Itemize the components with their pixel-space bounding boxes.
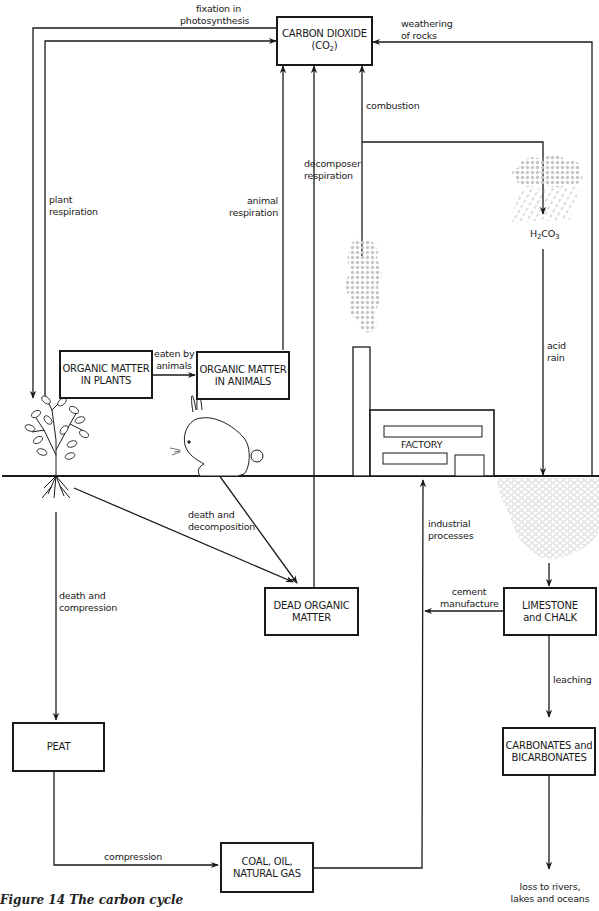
node-carbon-dioxide: CARBON DIOXIDE (CO2) (276, 16, 373, 66)
edge-plant-respiration (45, 41, 276, 398)
label-acid-rain: acidrain (547, 340, 566, 363)
rabbit-icon (170, 395, 263, 476)
node-organic-plants-line2: IN PLANTS (81, 375, 131, 387)
label-eaten-by-animals: eaten byanimals (154, 348, 194, 371)
node-peat-line1: PEAT (47, 741, 71, 753)
node-organic-matter-animals: ORGANIC MATTER IN ANIMALS (196, 351, 290, 400)
carbonic-acid-label: H2CO3 (530, 228, 559, 244)
node-carbon-dioxide-formula: (CO2) (311, 40, 337, 55)
node-organic-animals-line1: ORGANIC MATTER (199, 364, 286, 376)
node-limestone-line2: and CHALK (523, 612, 577, 624)
label-compression: compression (104, 851, 162, 863)
node-peat: PEAT (12, 722, 105, 772)
label-death-and-decomposition: death anddecomposition (188, 509, 255, 532)
node-organic-plants-line1: ORGANIC MATTER (62, 363, 149, 375)
label-fixation-in-photosynthesis: fixation inphotosynthesis (180, 3, 241, 26)
tree-icon (24, 394, 90, 498)
factory-label: FACTORY (401, 439, 442, 450)
node-organic-animals-line2: IN ANIMALS (215, 376, 271, 388)
node-dead-organic-matter: DEAD ORGANIC MATTER (264, 587, 359, 636)
node-carbonates-bicarbonates: CARBONATES and BICARBONATES (502, 727, 596, 776)
label-weathering-of-rocks: weatheringof rocks (401, 18, 453, 41)
label-death-and-compression: death andcompression (59, 590, 117, 613)
factory-icon (353, 347, 494, 476)
edge-plant-death-decomposition (74, 488, 293, 582)
edge-industrial-processes (314, 480, 423, 868)
label-plant-respiration: plantrespiration (49, 194, 98, 217)
edge-to-rain-cloud (362, 142, 543, 214)
node-limestone-chalk: LIMESTONE and CHALK (503, 587, 597, 636)
label-decomposer-respiration: decomposerrespiration (304, 158, 361, 181)
node-carbon-dioxide-line1: CARBON DIOXIDE (282, 28, 367, 40)
node-carbonates-line2: BICARBONATES (511, 752, 586, 764)
node-dead-organic-line2: MATTER (292, 612, 331, 624)
node-organic-matter-plants: ORGANIC MATTER IN PLANTS (59, 350, 153, 399)
label-cement-manufacture: cementmanufacture (440, 586, 498, 609)
node-coal-oil-gas: COAL, OIL, NATURAL GAS (220, 842, 314, 893)
label-leaching: leaching (553, 674, 592, 686)
label-industrial-processes: industrialprocesses (428, 518, 474, 541)
label-combustion: combustion (366, 100, 420, 112)
label-animal-respiration: animalrespiration (220, 195, 278, 218)
node-dead-organic-line1: DEAD ORGANIC (273, 600, 349, 612)
rock-icon (497, 478, 599, 559)
figure-caption: Figure 14 The carbon cycle (0, 893, 183, 907)
node-fossil-line1: COAL, OIL, (241, 856, 292, 868)
smoke-icon (346, 238, 382, 332)
label-loss-to-rivers: loss to rivers,lakes and oceans (506, 881, 594, 904)
node-fossil-line2: NATURAL GAS (233, 868, 301, 880)
rain-cloud-icon (510, 155, 582, 222)
node-limestone-line1: LIMESTONE (522, 600, 578, 612)
node-carbonates-line1: CARBONATES and (506, 740, 593, 752)
